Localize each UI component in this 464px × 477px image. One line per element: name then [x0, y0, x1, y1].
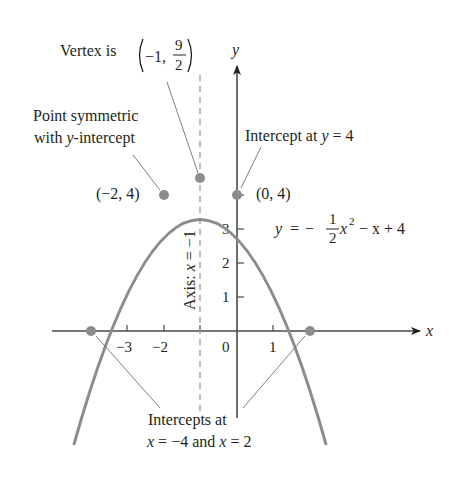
y-intercept-annotation: Intercept at y = 4 (0, 4): [245, 127, 354, 203]
svg-text:1: 1: [329, 211, 337, 227]
svg-text:y: y: [273, 220, 283, 238]
x-intercept-left-point: [86, 326, 96, 336]
vertex-annotation: Vertex is −1, 9 2: [60, 37, 192, 73]
y-intercept-point: [232, 190, 242, 200]
svg-text:−1,: −1,: [145, 48, 166, 65]
vertex-point: [195, 173, 205, 183]
svg-text:x: x: [339, 220, 347, 237]
axis-of-symmetry-label: Axis: x = −1: [181, 230, 198, 310]
y-tick-2: 2: [222, 255, 230, 271]
symmetric-point-label: (−2, 4): [96, 185, 140, 203]
svg-text:2: 2: [175, 57, 183, 73]
svg-text:Vertex is: Vertex is: [60, 42, 116, 59]
y-intercept-point-label: (0, 4): [256, 185, 291, 203]
svg-text:2: 2: [329, 230, 337, 246]
x-axis-label: x: [425, 322, 433, 339]
x-tick-neg3: −3: [116, 339, 132, 355]
x-tick-neg2: −2: [152, 339, 168, 355]
svg-text:Point symmetric: Point symmetric: [33, 107, 138, 125]
svg-text:x = −4 and x = 2: x = −4 and x = 2: [146, 433, 251, 450]
x-tick-0: 0: [222, 339, 230, 355]
svg-text:with y-intercept: with y-intercept: [34, 129, 135, 147]
svg-text:2: 2: [349, 215, 355, 227]
y-axis-label: y: [230, 41, 240, 59]
x-tick-1: 1: [269, 339, 277, 355]
x-intercept-right-point: [305, 326, 315, 336]
x-intercepts-annotation: Intercepts at x = −4 and x = 2: [146, 411, 251, 450]
y-tick-1: 1: [222, 289, 230, 305]
svg-text:− x + 4: − x + 4: [359, 220, 405, 237]
svg-text:Intercepts at: Intercepts at: [148, 411, 227, 429]
parabola-diagram: x −3 −2 0 1 y 1 2 3 Axis: x = −1: [0, 0, 464, 477]
svg-text:Intercept at y = 4: Intercept at y = 4: [245, 127, 354, 145]
svg-text:−: −: [305, 220, 314, 237]
svg-text:=: =: [290, 220, 299, 237]
equation-label: y = − 1 2 x 2 − x + 4: [273, 211, 405, 246]
symmetric-point-annotation: Point symmetric with y-intercept (−2, 4): [33, 107, 140, 203]
svg-text:9: 9: [175, 37, 183, 53]
symmetric-point: [159, 190, 169, 200]
